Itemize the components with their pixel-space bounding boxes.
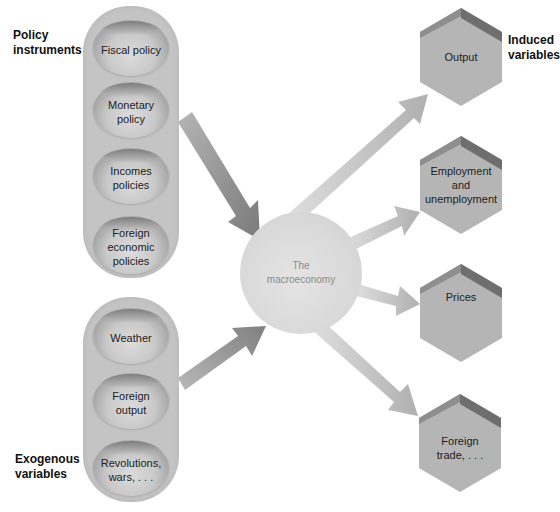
line: Prices <box>420 290 502 304</box>
policy-item-label: Foreign economic policies <box>107 222 154 268</box>
exogenous-item-label: Weather <box>110 327 151 345</box>
line: output <box>116 400 147 416</box>
line: Employment <box>420 164 502 178</box>
exogenous-item-label: Revolutions, wars, . . . <box>101 452 162 484</box>
induced-item-foreign-trade: Foreign trade, . . . <box>419 394 501 492</box>
exogenous-item-label: Foreign output <box>112 385 149 417</box>
exogenous-item-foreign-output: Foreign output <box>93 373 169 429</box>
hex-label: Employment and unemployment <box>420 164 502 206</box>
line: policies <box>113 251 150 267</box>
hexagon-shape <box>420 264 502 362</box>
policy-item-incomes: Incomes policies <box>93 148 169 204</box>
exogenous-item-revolutions-wars: Revolutions, wars, . . . <box>93 440 169 496</box>
line: policies <box>113 175 150 191</box>
line: trade, . . . <box>419 448 501 462</box>
line: Output <box>420 50 502 64</box>
line: macroeconomy <box>267 273 335 287</box>
policy-item-label: Incomes policies <box>110 160 152 192</box>
arrow-policy-to-macro <box>178 112 260 240</box>
exogenous-item-weather: Weather <box>93 308 169 364</box>
arrow-exogenous-to-macro <box>178 326 266 390</box>
policy-item-foreign-economic: Foreign economic policies <box>93 216 169 274</box>
hex-label: Foreign trade, . . . <box>419 434 501 462</box>
line: The <box>267 259 335 273</box>
line: and <box>420 178 502 192</box>
macroeconomy-node: The macroeconomy <box>240 212 362 334</box>
policy-item-monetary: Monetary policy <box>93 82 169 138</box>
induced-item-output: Output <box>420 8 502 106</box>
line: Weather <box>110 328 151 344</box>
line: wars, . . . <box>109 467 154 483</box>
policy-item-label: Monetary policy <box>108 94 154 126</box>
line: Fiscal policy <box>101 40 161 56</box>
line: policy <box>117 109 145 125</box>
macroeconomy-label: The macroeconomy <box>267 259 335 287</box>
hex-label: Output <box>420 50 502 64</box>
line: unemployment <box>420 192 502 206</box>
policy-item-fiscal: Fiscal policy <box>93 20 169 76</box>
hex-label: Prices <box>420 290 502 304</box>
policy-item-label: Fiscal policy <box>101 39 161 57</box>
induced-item-prices: Prices <box>420 264 502 362</box>
arrow-macro-to-output <box>288 94 428 222</box>
line: Foreign <box>419 434 501 448</box>
induced-item-employment: Employment and unemployment <box>420 136 502 234</box>
arrow-macro-to-prices <box>356 284 420 316</box>
arrow-macro-to-foreign-trade <box>312 320 418 416</box>
